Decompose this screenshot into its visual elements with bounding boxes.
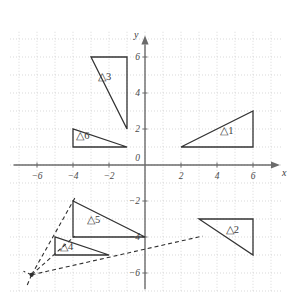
triangle-4-label: △4 bbox=[60, 241, 74, 252]
coordinate-plane-figure: −6−4−2246642−2−4−60xy △1△2△3△4△5△6 bbox=[0, 0, 295, 298]
y-axis-label: y bbox=[133, 29, 139, 40]
triangle-2-label: △2 bbox=[226, 224, 239, 235]
y-axis-arrowhead bbox=[141, 35, 148, 44]
triangle-1-label: △1 bbox=[220, 125, 233, 136]
projection-center-point bbox=[30, 273, 34, 277]
y-tick-label: −6 bbox=[129, 268, 140, 278]
x-axis-label: x bbox=[281, 167, 287, 178]
plot-canvas: −6−4−2246642−2−4−60xy △1△2△3△4△5△6 bbox=[0, 0, 295, 298]
axis-layer bbox=[14, 35, 280, 289]
triangle-layer bbox=[55, 57, 253, 255]
origin-label: 0 bbox=[135, 153, 140, 163]
x-tick-label: 4 bbox=[215, 171, 220, 181]
triangle-label-layer: △1△2△3△4△5△6 bbox=[60, 71, 239, 252]
x-tick-label: 2 bbox=[179, 171, 184, 181]
grid-layer bbox=[10, 32, 282, 291]
triangle-5-label: △5 bbox=[87, 214, 100, 225]
y-tick-label: 6 bbox=[135, 52, 140, 62]
x-tick-label: −6 bbox=[31, 171, 42, 181]
x-tick-label: −4 bbox=[67, 171, 78, 181]
x-tick-label: −2 bbox=[103, 171, 114, 181]
triangle-3-label: △3 bbox=[98, 71, 111, 82]
y-tick-label: 2 bbox=[135, 124, 140, 134]
y-tick-label: −2 bbox=[129, 196, 140, 206]
dashed-ray-layer bbox=[24, 197, 203, 288]
x-axis-arrowhead bbox=[271, 161, 280, 168]
x-tick-label: 6 bbox=[251, 171, 256, 181]
triangle-6-label: △6 bbox=[76, 130, 89, 141]
ray-to-triangle5-apex bbox=[32, 197, 76, 275]
y-tick-label: 4 bbox=[135, 88, 140, 98]
